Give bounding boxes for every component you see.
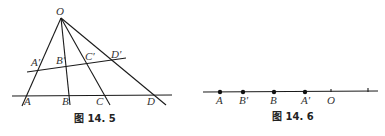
number-line [203, 91, 378, 92]
label-A-prime: A′ [300, 94, 311, 106]
label-A: A [23, 95, 31, 107]
label-C-prime: C′ [85, 50, 95, 62]
label-B-prime: B′ [239, 94, 249, 106]
label-B-prime: B′ [56, 54, 66, 66]
figure-14-5: O A′ B′ C′ D′ A B C D 图 14. 5 [12, 5, 172, 124]
label-O: O [327, 94, 335, 106]
label-B: B [270, 94, 277, 106]
label-D-prime: D′ [110, 48, 122, 60]
label-D: D [146, 95, 155, 107]
label-B: B [62, 95, 69, 107]
caption-14-5: 图 14. 5 [74, 113, 116, 124]
label-O: O [56, 5, 64, 17]
ray-OD [61, 18, 166, 105]
label-A-prime: A′ [30, 56, 41, 68]
caption-14-6: 图 14. 6 [272, 111, 314, 122]
label-C: C [96, 95, 104, 107]
diagram-canvas: O A′ B′ C′ D′ A B C D 图 14. 5 A B′ B A′ … [0, 0, 385, 136]
figure-14-6: A B′ B A′ O 图 14. 6 [203, 88, 378, 122]
label-A: A [215, 94, 223, 106]
